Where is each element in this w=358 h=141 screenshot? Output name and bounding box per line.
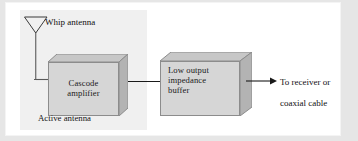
- wire-amplifier-to-buffer: [128, 81, 160, 82]
- block-low-output-impedance-buffer[interactable]: Low output impedance buffer: [160, 52, 252, 116]
- arrow-buffer-to-output: [246, 74, 278, 88]
- block-cascode-amplifier[interactable]: Cascode amplifier: [48, 54, 128, 116]
- output-destination-line1: To receiver or: [280, 77, 330, 88]
- active-antenna-label: Active antenna: [38, 113, 91, 123]
- whip-antenna-label: Whip antenna: [45, 17, 95, 28]
- block-cascode-label: Cascode amplifier: [48, 62, 119, 116]
- output-destination-label: To receiver or coaxial cable: [280, 66, 330, 119]
- block-buffer-label: Low output impedance buffer: [168, 66, 238, 95]
- figure-canvas: Whip antenna Cascode amplifier Low outpu…: [0, 0, 358, 141]
- block-buffer-label-line3: buffer: [168, 86, 238, 96]
- output-destination-line2: coaxial cable: [280, 98, 330, 109]
- wire-antenna-to-amplifier: [34, 79, 49, 80]
- block-cascode-label-line2: amplifier: [67, 89, 99, 99]
